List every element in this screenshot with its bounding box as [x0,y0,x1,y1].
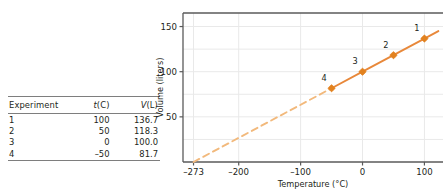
data-point-marker[interactable] [359,68,367,76]
y-axis-title: Volume (liters) [155,58,165,118]
table-row: 4 –50 81.7 [8,148,160,160]
chart-svg: 1234 50100150–273–200–1000100 Temperatur… [155,0,446,196]
cell-volume: 81.7 [118,148,160,160]
chart-tick-labels: 50100150–273–200–1000100 [161,22,433,177]
marker-shape [359,68,367,76]
table-row: 2 50 118.3 [8,125,160,136]
data-table-panel: Experiment t(C) V(L) 1 100 136.7 2 50 11… [8,96,160,161]
data-point-marker[interactable] [390,51,398,59]
table-body: 1 100 136.7 2 50 118.3 3 0 100.0 4 –50 [8,114,160,161]
volume-temperature-chart: 1234 50100150–273–200–1000100 Temperatur… [155,0,446,196]
chart-point-labels: 1234 [321,23,419,83]
x-tick-label: 100 [416,167,432,177]
y-tick-label: 50 [166,112,177,122]
table-header-row: Experiment t(C) V(L) [8,97,160,114]
marker-shape [328,84,336,92]
chart-series [194,31,439,162]
experiment-data-table: Experiment t(C) V(L) 1 100 136.7 2 50 11… [8,96,160,161]
cell-temperature: 50 [72,125,117,136]
column-header-volume: V(L) [118,97,160,114]
x-axis-title: Temperature (°C) [277,179,349,189]
x-tick-label: –100 [290,167,311,177]
figure-root: Experiment t(C) V(L) 1 100 136.7 2 50 11… [0,0,446,196]
column-header-experiment: Experiment [8,97,72,114]
cell-experiment: 4 [8,148,72,160]
cell-temperature: –50 [72,148,117,160]
column-header-temperature-unit: (C) [97,100,110,110]
data-point-label: 3 [352,56,357,66]
data-point-marker[interactable] [328,84,336,92]
data-point-label: 1 [414,23,419,33]
table-header: Experiment t(C) V(L) [8,97,160,114]
cell-volume: 136.7 [118,114,160,126]
cell-volume: 100.0 [118,137,160,148]
cell-volume: 118.3 [118,125,160,136]
cell-experiment: 1 [8,114,72,126]
table-row: 3 0 100.0 [8,137,160,148]
marker-shape [421,35,429,43]
x-tick-label: 0 [360,167,365,177]
series-line-extrapolation [194,88,332,162]
cell-temperature: 0 [72,137,117,148]
x-tick-label: –273 [183,167,204,177]
cell-experiment: 3 [8,137,72,148]
cell-experiment: 2 [8,125,72,136]
cell-temperature: 100 [72,114,117,126]
chart-gridlines [183,13,443,162]
series-line-measured [332,39,425,89]
column-header-temperature: t(C) [72,97,117,114]
data-point-marker[interactable] [421,35,429,43]
x-tick-label: –200 [228,167,249,177]
y-tick-label: 150 [161,22,177,32]
marker-shape [390,51,398,59]
data-point-label: 2 [383,40,388,50]
table-row: 1 100 136.7 [8,114,160,126]
data-point-label: 4 [321,73,326,83]
